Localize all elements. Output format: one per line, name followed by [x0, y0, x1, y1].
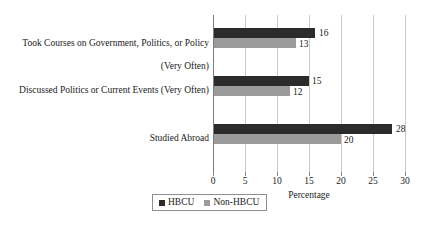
gridline-20 [341, 15, 342, 172]
bar-hbcu-took-courses [213, 28, 315, 38]
legend-item-hbcu: HBCU [159, 197, 194, 208]
category-label-studied-abroad: Studied Abroad [0, 133, 209, 145]
value-label-nonhbcu-took-courses: 13 [299, 39, 309, 49]
gridline-30 [405, 15, 406, 172]
chart-legend: HBCU Non-HBCU [152, 194, 267, 211]
category-label-took-courses-line2: (Very Often) [161, 61, 209, 71]
gridline-15 [309, 15, 310, 172]
x-tick-label-25: 25 [358, 176, 388, 187]
x-tick-label-5: 5 [230, 176, 260, 187]
value-label-hbcu-discussed-politics: 15 [312, 76, 322, 86]
value-label-hbcu-took-courses: 16 [319, 28, 329, 38]
x-tick-label-20: 20 [326, 176, 356, 187]
category-label-took-courses-line1: Took Courses on Government, Politics, or… [22, 38, 209, 48]
bar-hbcu-studied-abroad [213, 124, 392, 134]
value-label-nonhbcu-studied-abroad: 20 [344, 135, 354, 145]
x-tick-label-15: 15 [294, 176, 324, 187]
bar-nonhbcu-discussed-politics [213, 86, 290, 96]
bar-chart: 16 13 15 12 28 20 Took Courses on Govern… [0, 0, 425, 228]
value-label-hbcu-studied-abroad: 28 [396, 124, 406, 134]
legend-swatch-icon-hbcu [159, 200, 165, 206]
plot-area: 16 13 15 12 28 20 [213, 15, 405, 172]
legend-label-nonhbcu: Non-HBCU [213, 197, 259, 208]
legend-item-nonhbcu: Non-HBCU [204, 197, 259, 208]
y-axis-line [213, 15, 214, 172]
legend-swatch-icon-nonhbcu [204, 200, 210, 206]
x-tick-label-10: 10 [262, 176, 292, 187]
x-tick-label-0: 0 [198, 176, 228, 187]
value-label-nonhbcu-discussed-politics: 12 [293, 87, 303, 97]
category-label-discussed-politics: Discussed Politics or Current Events (Ve… [0, 85, 209, 97]
gridline-25 [373, 15, 374, 172]
bar-nonhbcu-studied-abroad [213, 134, 341, 144]
legend-label-hbcu: HBCU [168, 197, 194, 208]
x-tick-label-30: 30 [390, 176, 420, 187]
bar-nonhbcu-took-courses [213, 38, 296, 48]
category-label-took-courses: Took Courses on Government, Politics, or… [0, 26, 209, 72]
bar-hbcu-discussed-politics [213, 76, 309, 86]
